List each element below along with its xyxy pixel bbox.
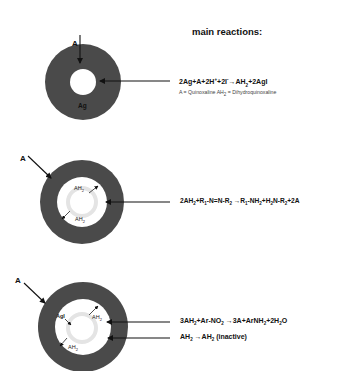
- note-text: A = Quinoxaline AH: [179, 89, 224, 95]
- entry-label: A: [72, 39, 78, 48]
- equation-3: 3AH2+Ar-NO2 →3A+ArNH2+2H2O: [180, 317, 287, 326]
- agi-label: AgI: [56, 313, 65, 319]
- entry-label: A: [15, 276, 21, 285]
- core-label: Ag: [78, 102, 87, 110]
- entry-arrow: [24, 283, 45, 303]
- eq-text: 2Ag+A+2H: [179, 78, 214, 85]
- inner-cavity: [55, 299, 111, 355]
- eq-text: O: [282, 317, 287, 324]
- eq-text: -N=N-R: [207, 197, 230, 204]
- eq-text: +2I: [217, 78, 227, 85]
- entry-arrow: [28, 156, 51, 178]
- eq-text: →AH: [193, 333, 212, 340]
- eq-text: -NH: [248, 197, 260, 204]
- diagram-title: main reactions:: [192, 26, 262, 37]
- eq-text: +2AgI: [248, 78, 267, 85]
- equation-4: AH2 →AH2 (inactive): [180, 333, 247, 342]
- eq-text: (inactive): [214, 333, 247, 340]
- eq-text: +Ar-NO: [197, 317, 222, 324]
- equation-2: 2AH2+R1-N=N-R2 →R1-NH2+H2N-R2+2A: [180, 197, 300, 206]
- equation-1: 2Ag+A+2H++2I-→AH2+2AgI: [179, 77, 267, 88]
- panel-1-particle: A Ag: [45, 35, 170, 120]
- equation-1-note: A = Quinoxaline AH2 = Dihydroquinoxaline: [179, 89, 276, 97]
- eq-text: 2AH: [180, 197, 193, 204]
- diagram-canvas: A Ag A AH2 AH2 A AgI AH2 AH2: [0, 0, 339, 371]
- eq-text: →3A+ArNH: [224, 317, 264, 324]
- panel-3-particle: A AgI AH2 AH2: [15, 276, 170, 371]
- eq-text: +2A: [287, 197, 299, 204]
- eq-text: AH: [180, 333, 190, 340]
- panel-2-particle: A AH2 AH2: [20, 154, 170, 244]
- eq-text: →R: [232, 197, 245, 204]
- note-text: = Dihydroquinoxaline: [226, 89, 276, 95]
- eq-text: N-R: [273, 197, 285, 204]
- inner-core: [70, 69, 96, 95]
- eq-text: +2H: [266, 317, 279, 324]
- eq-text: →AH: [228, 78, 245, 85]
- entry-label: A: [20, 154, 26, 163]
- eq-text: 3AH: [180, 317, 194, 324]
